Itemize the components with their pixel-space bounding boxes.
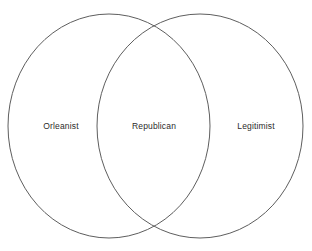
- venn-circle-left: [8, 14, 210, 238]
- venn-label-intersection: Republican: [132, 122, 176, 131]
- venn-label-left-set: Orleanist: [43, 122, 78, 131]
- venn-diagram: Orleanist Republican Legitimist: [0, 0, 312, 251]
- venn-label-right-set: Legitimist: [237, 122, 274, 131]
